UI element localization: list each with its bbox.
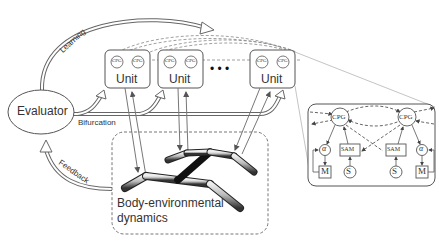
inset-s-right: S xyxy=(392,166,397,176)
inset-alpha-left: α xyxy=(322,144,326,153)
unit-3-label: Unit xyxy=(261,72,282,86)
inset-cpg-right: CPG xyxy=(399,113,413,121)
inset-sam-right: SAM xyxy=(387,146,400,152)
unit-2-cpg-left: CPG xyxy=(165,58,175,63)
unit-2-label: Unit xyxy=(169,72,190,86)
body-label-line1: Body-environmental xyxy=(117,196,224,210)
ellipsis: • • • xyxy=(210,62,229,76)
inset-m-right: M xyxy=(418,166,426,176)
diagram-canvas xyxy=(0,0,439,252)
unit-2-cpg-right: CPG xyxy=(186,58,196,63)
inset-cpg-left: CPG xyxy=(332,113,346,121)
unit-3-cpg-right: CPG xyxy=(278,58,288,63)
inset-sam-left: SAM xyxy=(341,146,354,152)
body-label-line2: dynamics xyxy=(117,211,168,225)
unit-1-cpg-right: CPG xyxy=(133,58,143,63)
inset-s-left: S xyxy=(346,166,351,176)
unit-1-cpg-left: CPG xyxy=(112,58,122,63)
unit-3-cpg-left: CPG xyxy=(257,58,267,63)
bifurcation-label: Bifurcation xyxy=(78,118,116,127)
evaluator-label: Evaluator xyxy=(17,104,68,118)
inset-m-left: M xyxy=(321,166,329,176)
inset-alpha-right: α xyxy=(419,144,423,153)
unit-1-label: Unit xyxy=(116,72,137,86)
diagram-root: Evaluator Learning Bifurcation Feedback … xyxy=(0,0,439,252)
feedback-arrow xyxy=(40,140,112,189)
bifurcation-arrows xyxy=(74,90,285,114)
